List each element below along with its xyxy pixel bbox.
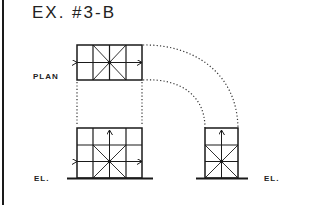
projection-lines (77, 45, 238, 128)
elevation-side-view (196, 128, 248, 179)
plan-center-point (108, 61, 111, 64)
rotation-arc-outer (143, 45, 238, 128)
elevation-front-view (67, 128, 153, 179)
plan-view (77, 45, 142, 80)
diagram-canvas (0, 0, 311, 205)
rotation-arc-inner (143, 80, 205, 128)
